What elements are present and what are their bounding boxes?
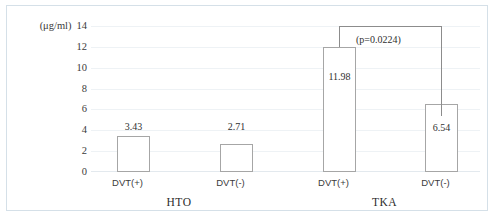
- y-tick-8: 8: [7, 83, 87, 94]
- y-tick-label: 14: [77, 20, 88, 31]
- y-tick-label: 0: [82, 166, 87, 177]
- p-value-label: (p=0.0224): [356, 35, 401, 45]
- y-tick-label: 8: [82, 82, 87, 93]
- bar-value-tka-dvt-positive: 11.98: [323, 72, 356, 82]
- bar-tka-dvt-negative[interactable]: [425, 104, 458, 172]
- bar-chart-figure: (μg/ml)14 12 10 8 6 4 2 0: [0, 0, 494, 221]
- y-axis: (μg/ml)14 12 10 8 6 4 2 0: [7, 26, 87, 172]
- y-tick-label: 10: [77, 61, 88, 72]
- bar-value-hto-dvt-negative: 2.71: [220, 122, 253, 132]
- y-tick-6: 6: [7, 104, 87, 115]
- bar-hto-dvt-positive[interactable]: [117, 136, 150, 172]
- category-label-tka-dvt-negative: DVT(-): [399, 178, 472, 188]
- y-tick-4: 4: [7, 125, 87, 136]
- bracket-right-tick: [441, 26, 442, 116]
- chart-frame: (μg/ml)14 12 10 8 6 4 2 0: [6, 5, 488, 211]
- y-tick-label: 6: [82, 103, 87, 114]
- gridline-14: [91, 26, 480, 27]
- category-label-hto-dvt-positive: DVT(+): [91, 178, 164, 188]
- y-axis-unit-label: (μg/ml): [40, 20, 72, 31]
- group-label-hto: HTO: [91, 197, 267, 209]
- category-label-hto-dvt-negative: DVT(-): [194, 178, 267, 188]
- gridline-10: [91, 68, 480, 69]
- y-tick-12: 12: [7, 42, 87, 53]
- y-tick-label: 12: [77, 41, 88, 52]
- y-tick-0: 0: [7, 167, 87, 178]
- y-tick-10: 10: [7, 62, 87, 73]
- y-tick-14: (μg/ml)14: [7, 21, 87, 32]
- gridline-6: [91, 109, 480, 110]
- gridline-12: [91, 47, 480, 48]
- group-label-tka: TKA: [297, 197, 472, 209]
- bar-tka-dvt-positive[interactable]: [323, 47, 356, 172]
- y-tick-label: 2: [82, 145, 87, 156]
- bar-value-tka-dvt-negative: 6.54: [425, 123, 458, 133]
- category-label-tka-dvt-positive: DVT(+): [297, 178, 370, 188]
- bar-value-hto-dvt-positive: 3.43: [117, 122, 150, 132]
- y-tick-label: 4: [82, 124, 87, 135]
- y-tick-2: 2: [7, 146, 87, 157]
- plot-area: 3.43 2.71 11.98 6.54 (p=0.0224): [91, 26, 480, 172]
- gridline-8: [91, 89, 480, 90]
- bar-hto-dvt-negative[interactable]: [220, 144, 253, 172]
- bracket-left-tick: [339, 26, 340, 47]
